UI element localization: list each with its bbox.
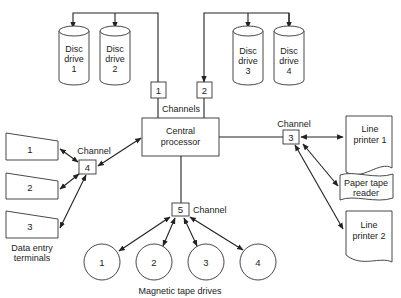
tape-drive-3: 3 [188, 244, 224, 280]
svg-text:Line: Line [361, 124, 378, 134]
svg-text:4: 4 [255, 257, 260, 268]
terminal-3: 3 [6, 211, 58, 238]
svg-text:3: 3 [203, 257, 208, 268]
svg-text:Paper tape: Paper tape [344, 178, 388, 188]
svg-text:3: 3 [27, 221, 32, 232]
line-printer-2: Line printer 2 [346, 211, 392, 262]
svg-text:processor: processor [161, 137, 201, 147]
channel-2-box: 2 [197, 82, 212, 98]
channel-5-box: 5 [172, 203, 189, 216]
svg-text:3: 3 [288, 132, 293, 143]
channels-label: Channels [162, 104, 201, 114]
svg-text:Line: Line [360, 220, 377, 230]
svg-text:drive: drive [279, 56, 299, 66]
svg-text:drive: drive [64, 54, 84, 64]
svg-text:drive: drive [105, 54, 125, 64]
tape-drive-2: 2 [136, 244, 172, 280]
terminal-2: 2 [6, 173, 58, 199]
terminals-caption-line2: terminals [14, 253, 51, 263]
svg-text:1: 1 [99, 257, 104, 268]
line-printer-1: Line printer 1 [346, 116, 392, 175]
terminals-caption-line1: Data entry [11, 243, 53, 253]
terminal-1: 1 [6, 133, 58, 160]
svg-text:2: 2 [112, 64, 117, 74]
tape-drives-caption: Magnetic tape drives [138, 286, 222, 296]
channel-4-box: 4 [79, 160, 96, 174]
svg-text:printer 1: printer 1 [353, 135, 386, 145]
central-processor: Central processor [142, 118, 219, 156]
channel-1-box: 1 [151, 82, 166, 98]
svg-text:Disc: Disc [65, 44, 83, 54]
svg-text:3: 3 [245, 66, 250, 76]
channel-3-box: 3 [283, 130, 299, 144]
computer-system-diagram: Disc drive 1 Disc drive 2 1 Disc drive 3… [0, 0, 401, 298]
disc-drive-2: Disc drive 2 [100, 26, 130, 85]
svg-text:2: 2 [202, 85, 207, 96]
disc-drive-3: Disc drive 3 [233, 26, 263, 85]
disc-drive-4: Disc drive 4 [274, 26, 304, 85]
svg-text:4: 4 [286, 66, 291, 76]
channel-3-label: Channel [277, 119, 311, 129]
tape-drive-4: 4 [240, 244, 276, 280]
disc-drive-1: Disc drive 1 [59, 26, 89, 85]
svg-text:Central: Central [166, 126, 195, 136]
svg-text:4: 4 [85, 162, 90, 173]
svg-text:1: 1 [71, 64, 76, 74]
paper-tape-reader: Paper tape reader [340, 174, 393, 200]
svg-text:Disc: Disc [106, 44, 124, 54]
svg-text:5: 5 [178, 204, 183, 215]
svg-text:1: 1 [156, 85, 161, 96]
svg-text:drive: drive [238, 56, 258, 66]
svg-text:Disc: Disc [239, 46, 257, 56]
svg-text:2: 2 [27, 182, 32, 193]
channel-5-label: Channel [193, 205, 227, 215]
svg-text:1: 1 [27, 144, 32, 155]
svg-text:2: 2 [151, 257, 156, 268]
tape-drive-1: 1 [84, 244, 120, 280]
svg-text:reader: reader [353, 188, 379, 198]
svg-text:Disc: Disc [280, 46, 298, 56]
channel-4-label: Channel [77, 146, 111, 156]
svg-text:printer 2: printer 2 [352, 231, 385, 241]
